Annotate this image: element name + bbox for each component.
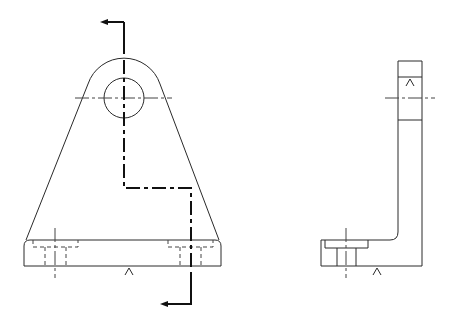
surface-mark-icon	[125, 268, 133, 275]
surface-mark-icon	[406, 79, 414, 86]
arrow-left-icon	[100, 19, 108, 25]
arrow-left-icon	[160, 301, 168, 307]
side-view	[321, 61, 435, 278]
side-plate	[321, 61, 422, 266]
section-line	[100, 19, 191, 307]
front-view	[24, 19, 221, 307]
drawing-canvas	[0, 0, 452, 318]
surface-mark-icon	[373, 268, 381, 275]
